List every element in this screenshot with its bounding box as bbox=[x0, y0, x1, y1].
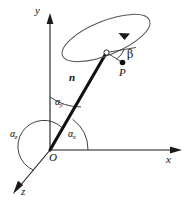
rotation-ellipse bbox=[56, 5, 156, 72]
x-axis-label: x bbox=[166, 154, 171, 165]
x-axis bbox=[50, 147, 182, 154]
point-p-label: P bbox=[119, 67, 126, 78]
origin-label: O bbox=[49, 152, 57, 163]
diagram-svg bbox=[0, 0, 188, 202]
y-axis-label: y bbox=[35, 5, 40, 16]
alpha-x-label: αx bbox=[68, 129, 76, 141]
ring-center-node bbox=[104, 50, 109, 55]
z-axis bbox=[13, 150, 50, 194]
alpha-z-label: αz bbox=[10, 129, 17, 141]
y-axis bbox=[47, 13, 54, 150]
alpha-z-subscript: z bbox=[15, 133, 18, 141]
alpha-x-subscript: x bbox=[73, 133, 76, 141]
alpha-y-subscript: y bbox=[60, 101, 63, 109]
rotation-ellipse-group bbox=[56, 5, 156, 72]
point-p-node bbox=[120, 60, 126, 66]
alpha-y-label: αy bbox=[55, 97, 63, 109]
z-axis-line bbox=[20, 150, 50, 186]
y-axis-arrowhead bbox=[47, 13, 54, 24]
beta-angle-label: β bbox=[127, 49, 133, 60]
z-axis-label: z bbox=[21, 186, 25, 197]
figure-canvas: y x z O n P β αy αx αz bbox=[0, 0, 188, 202]
x-axis-arrowhead bbox=[170, 147, 182, 154]
rotation-direction-arrowhead bbox=[119, 33, 131, 40]
vector-n-label: n bbox=[69, 72, 75, 83]
